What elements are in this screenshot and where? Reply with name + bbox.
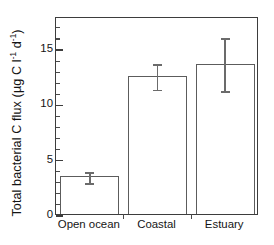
error-bar [224,39,225,92]
error-bar-cap-upper [221,38,230,39]
x-axis-tick-label: Open ocean [55,218,123,232]
y-axis-title-container: Total bacterial C flux (µg C l-1 d-1) [0,0,34,245]
y-axis-minor-tick [56,127,60,128]
x-axis-tick-label: Estuary [190,218,258,232]
bar [128,76,187,214]
x-axis-tick-labels: Open oceanCoastalEstuary [55,218,258,238]
y-axis-title-exponent-2: -1 [9,33,18,40]
y-axis-title-prefix: Total bacterial C flux (µg C l [10,59,24,216]
y-axis-title-suffix: ) [10,29,24,33]
error-bar-cap-lower [153,90,162,91]
y-axis-minor-tick [56,72,60,73]
y-axis-tick-labels: 051015 [31,0,53,245]
y-axis-title-exponent-1: -1 [9,51,18,58]
y-axis-minor-tick [56,27,60,28]
error-bar-cap-lower [221,91,230,92]
error-bar [157,65,158,90]
y-axis-minor-tick [56,116,60,117]
y-axis-title: Total bacterial C flux (µg C l-1 d-1) [10,29,24,216]
y-axis-major-tick [56,160,63,161]
chart-figure: Total bacterial C flux (µg C l-1 d-1) 05… [0,0,274,245]
y-axis-major-tick [56,105,63,106]
y-axis-tick-label: 0 [31,209,53,220]
error-bar-cap-lower [85,183,94,184]
y-axis-minor-tick [56,171,60,172]
y-axis-minor-tick [56,61,60,62]
y-axis-tick-label: 5 [31,154,53,165]
y-axis-minor-tick [56,38,60,39]
plot-area [55,17,258,215]
x-axis-tick-label: Coastal [123,218,191,232]
y-axis-tick-label: 10 [31,98,53,109]
y-axis-major-tick [56,49,63,50]
y-axis-minor-tick [56,149,60,150]
y-axis-major-tick [56,215,63,216]
y-axis-minor-tick [56,83,60,84]
y-axis-minor-tick [56,138,60,139]
error-bar-cap-upper [85,172,94,173]
y-axis-title-middle: d [10,41,24,52]
y-axis-tick-label: 15 [31,43,53,54]
error-bar-cap-upper [153,64,162,65]
y-axis-minor-tick [56,94,60,95]
